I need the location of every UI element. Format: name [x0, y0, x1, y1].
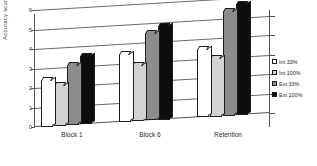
bar-side-face [156, 30, 160, 120]
y-axis-tick-mark [31, 127, 35, 128]
bar-side-face [169, 23, 173, 119]
legend-swatch [272, 70, 277, 75]
bar-side-face [247, 1, 251, 114]
plot-area [35, 10, 270, 127]
y-axis-tick-mark [31, 69, 35, 70]
legend-item: Ext 100% [272, 89, 317, 100]
bar-chart: Accuracy score 0123456 Block 1Block 6Ret… [0, 0, 317, 166]
legend-label: Ext 33% [279, 81, 299, 87]
bar-side-face [234, 7, 238, 114]
legend-label: Int 100% [279, 70, 301, 76]
y-axis-tick-mark [31, 49, 35, 50]
y-axis-tick-labels: 0123456 [18, 0, 32, 166]
y-axis-tick-mark [31, 108, 35, 109]
y-axis-tick-mark [31, 88, 35, 89]
legend-item: Int 100% [272, 67, 317, 78]
bar [119, 54, 131, 122]
x-axis-category-label: Block 1 [35, 131, 109, 138]
bar-side-face [52, 77, 56, 126]
y-axis-tick-mark [31, 30, 35, 31]
legend-label: Int 33% [279, 59, 298, 65]
x-axis-category-label: Retention [191, 131, 265, 138]
bar-side-face [65, 82, 69, 125]
legend-swatch [272, 59, 277, 64]
legend-swatch [272, 81, 277, 86]
legend-label: Ext 100% [279, 92, 303, 98]
x-axis-category-label: Block 6 [113, 131, 187, 138]
legend-item: Int 33% [272, 56, 317, 67]
bar-side-face [78, 62, 82, 125]
right-axis-tick [269, 35, 275, 36]
right-axis-line [269, 10, 270, 127]
bar [197, 49, 209, 117]
bar-side-face [143, 62, 147, 121]
legend-item: Ext 33% [272, 78, 317, 89]
bar-side-face [130, 51, 134, 121]
y-axis-tick-mark [31, 10, 35, 11]
bar-side-face [208, 46, 212, 116]
bar-side-face [221, 55, 225, 116]
right-axis-tick [269, 16, 275, 17]
bar [41, 80, 53, 127]
bar-side-face [91, 53, 95, 123]
legend: Int 33%Int 100%Ext 33%Ext 100% [272, 56, 317, 100]
right-axis-tick [269, 113, 275, 114]
legend-swatch [272, 92, 277, 97]
y-axis-title: Accuracy score [2, 0, 8, 40]
